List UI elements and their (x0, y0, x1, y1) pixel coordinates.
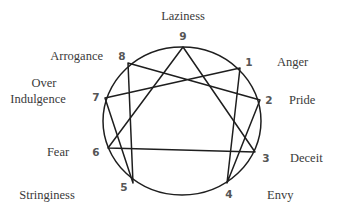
number-4: 4 (225, 188, 232, 200)
label-arrogance: Arrogance (50, 49, 103, 63)
number-3: 3 (262, 152, 269, 164)
label-laziness: Laziness (161, 9, 205, 23)
number-1: 1 (245, 56, 252, 68)
label-over: Over (32, 76, 58, 90)
label-pride: Pride (289, 93, 316, 107)
label-indulgence: Indulgence (10, 92, 66, 106)
label-anger: Anger (277, 55, 309, 69)
inner-hexad (105, 63, 260, 183)
number-6: 6 (92, 146, 99, 158)
number-8: 8 (118, 50, 125, 62)
label-deceit: Deceit (290, 151, 323, 165)
number-5: 5 (120, 181, 127, 193)
enneagram-diagram: Laziness 9 1 Anger 2 Pride 3 Deceit 4 En… (0, 0, 342, 214)
label-stringiness: Stringiness (19, 188, 75, 202)
number-7: 7 (92, 91, 99, 103)
number-2: 2 (265, 94, 272, 106)
label-envy: Envy (267, 188, 294, 202)
label-fear: Fear (47, 145, 70, 159)
number-9: 9 (179, 30, 186, 42)
